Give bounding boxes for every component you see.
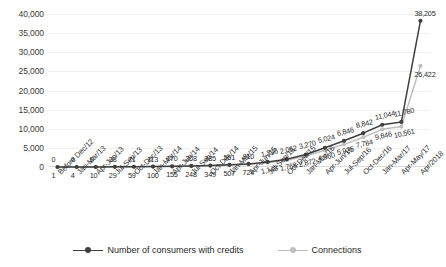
data-point (399, 120, 403, 124)
legend-item[interactable]: Connections (278, 245, 362, 255)
y-axis-tick-label: 40,000 (19, 9, 44, 19)
data-point (361, 131, 365, 135)
y-axis-tick-label: 25,000 (19, 66, 44, 76)
x-axis-tick-labels: Before Dec/12Jan-Mar/13Apr-Jun/13Jul-Sep… (48, 170, 430, 232)
chart-legend: Number of consumers with creditsConnecti… (0, 240, 435, 260)
legend-swatch (278, 245, 308, 255)
y-axis-tick-label: 5,000 (23, 143, 44, 153)
data-point (418, 64, 422, 68)
y-axis-tick-label: 0 (39, 162, 44, 172)
legend-swatch (73, 245, 103, 255)
y-axis-tick-label: 15,000 (19, 105, 44, 115)
y-axis-tick-label: 10,000 (19, 124, 44, 134)
data-label: 26,422 (414, 70, 435, 79)
data-label: 0 (52, 155, 56, 164)
plot-area: 00038711131702683855618101,3362,0523,270… (48, 14, 430, 167)
data-point (342, 139, 346, 143)
legend-label: Connections (312, 245, 362, 255)
y-axis: 05,00010,00015,00020,00025,00030,00035,0… (0, 0, 44, 181)
y-axis-tick-label: 35,000 (19, 28, 44, 38)
data-point (380, 123, 384, 127)
y-axis-tick-label: 20,000 (19, 86, 44, 96)
data-label: 38,205 (414, 9, 435, 18)
data-point (418, 19, 422, 23)
y-axis-tick-label: 30,000 (19, 47, 44, 57)
legend-label: Number of consumers with credits (107, 245, 243, 255)
legend-item[interactable]: Number of consumers with credits (73, 245, 243, 255)
